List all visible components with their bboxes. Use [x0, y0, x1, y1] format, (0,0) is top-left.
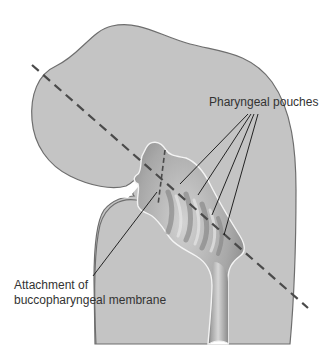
- label-attachment-line2: buccopharyngeal membrane: [14, 293, 166, 308]
- label-attachment-buccopharyngeal-membrane: Attachment of buccopharyngeal membrane: [14, 278, 166, 308]
- embryo-diagram: [0, 0, 335, 363]
- label-attachment-line1: Attachment of: [14, 278, 166, 293]
- label-pharyngeal-pouches: Pharyngeal pouches: [209, 95, 318, 110]
